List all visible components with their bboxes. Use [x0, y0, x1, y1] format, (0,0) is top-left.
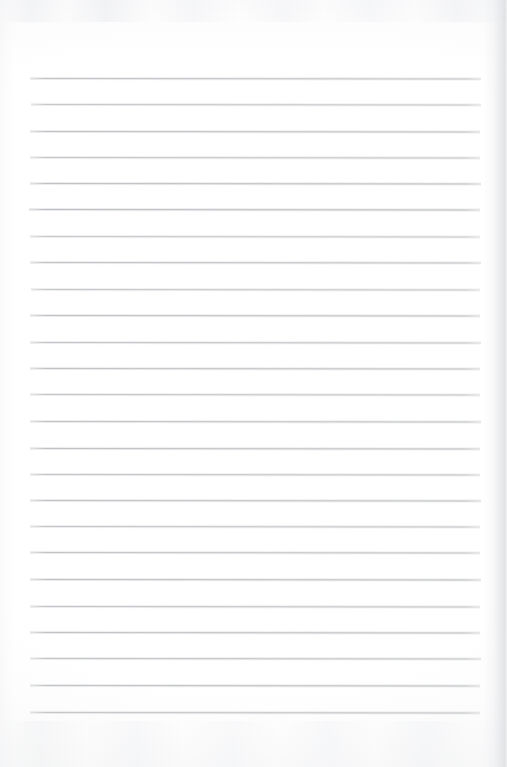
scanned-page [0, 0, 507, 767]
writing-area [0, 0, 507, 767]
